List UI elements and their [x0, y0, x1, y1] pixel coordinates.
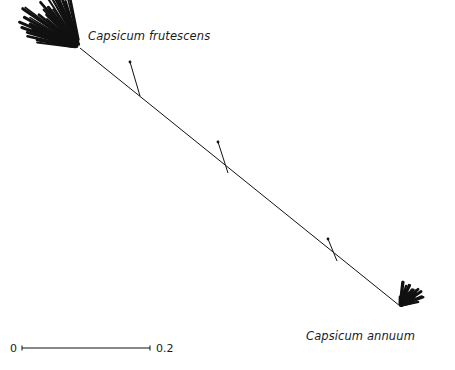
- branch-stub-tip: [217, 141, 220, 144]
- branch-stubs: [129, 61, 337, 261]
- branch-stub: [218, 142, 228, 173]
- scale-bar-min-label: 0: [10, 342, 17, 355]
- branch-stub: [130, 62, 140, 96]
- tree-canvas: [0, 0, 455, 370]
- phylogenetic-tree-figure: Capsicum frutescens Capsicum annuum 0 0.…: [0, 0, 455, 370]
- branch-stub: [328, 239, 337, 261]
- scale-bar-max-label: 0.2: [156, 342, 174, 355]
- taxon-label-frutescens: Capsicum frutescens: [88, 29, 210, 43]
- internal-branch: [80, 48, 400, 306]
- branch-stub-tip: [327, 238, 330, 241]
- taxon-label-annuum: Capsicum annuum: [306, 329, 415, 343]
- clade-annuum: [400, 282, 423, 306]
- clade-frutescens: [19, 0, 78, 47]
- internal-branch: [80, 48, 400, 306]
- branch-stub-tip: [129, 61, 132, 64]
- scale-bar: [22, 346, 150, 351]
